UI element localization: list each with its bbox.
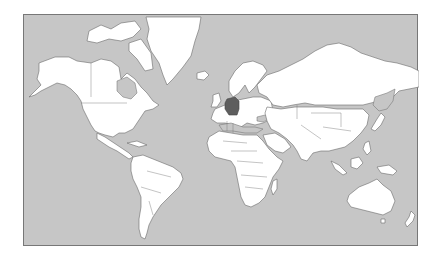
- cuba: [127, 141, 147, 147]
- borneo: [351, 157, 363, 169]
- sumatra: [331, 161, 347, 175]
- iceland: [197, 71, 209, 80]
- south-america: [131, 155, 183, 239]
- world-map-svg: [24, 15, 419, 247]
- asia-russia: [257, 43, 419, 107]
- north-america: [29, 57, 159, 137]
- germany-highlighted: [225, 97, 239, 115]
- new-zealand: [405, 211, 415, 227]
- tasmania: [381, 219, 385, 223]
- australia: [347, 179, 395, 215]
- central-america: [97, 133, 133, 159]
- world-map: [23, 14, 418, 246]
- asia-south: [265, 107, 369, 161]
- madagascar: [271, 179, 277, 195]
- greenland: [146, 17, 201, 85]
- japan: [371, 113, 385, 131]
- arctic-islands: [87, 21, 141, 43]
- british-isles: [211, 93, 221, 107]
- philippines: [363, 141, 371, 155]
- new-guinea: [377, 165, 397, 175]
